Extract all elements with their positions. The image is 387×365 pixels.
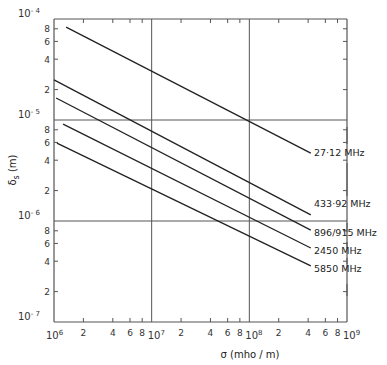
- x-minor-tick-label: 2: [81, 328, 87, 338]
- y-minor-tick-label: 4: [44, 257, 50, 267]
- x-minor-tick-label: 4: [110, 328, 116, 338]
- y-minor-tick-label: 8: [44, 226, 50, 236]
- y-minor-tick-label: 6: [44, 138, 50, 148]
- x-decade-label: 108: [245, 329, 262, 341]
- y-minor-tick-label: 2: [44, 186, 50, 196]
- x-decade-label: 106: [46, 329, 64, 341]
- x-minor-tick-label: 6: [225, 328, 231, 338]
- grid: [54, 19, 347, 322]
- y-axis-title: δs (m): [7, 154, 21, 185]
- y-minor-tick-label: 6: [44, 239, 50, 249]
- series-line-2: [56, 98, 311, 230]
- series-lines: [54, 27, 311, 266]
- y-minor-tick-label: 6: [44, 37, 50, 47]
- x-minor-tick-label: 4: [208, 328, 214, 338]
- x-axis-title: σ (mho / m): [221, 349, 280, 360]
- y-minor-tick-label: 8: [44, 125, 50, 135]
- x-minor-tick-label: 2: [178, 328, 184, 338]
- x-minor-tick-label: 8: [237, 328, 243, 338]
- y-minor-tick-label: 4: [44, 156, 50, 166]
- series-line-4: [57, 143, 311, 266]
- series-label: 896/915 MHz: [314, 227, 377, 238]
- x-minor-tick-label: 8: [139, 328, 145, 338]
- x-decade-label: 109: [343, 329, 360, 341]
- series-line-0: [66, 27, 311, 153]
- axes: [54, 19, 347, 322]
- y-decade-label: 10- 5: [18, 108, 40, 120]
- y-minor-tick-label: 2: [44, 287, 50, 297]
- x-minor-tick-label: 6: [322, 328, 328, 338]
- x-minor-tick-label: 8: [335, 328, 341, 338]
- x-minor-tick-label: 4: [305, 328, 311, 338]
- series-label: 433·92 MHz: [314, 198, 371, 209]
- series-label: 5850 MHz: [314, 263, 362, 274]
- x-decade-label: 107: [148, 329, 165, 341]
- series-label: 27·12 MHz: [314, 147, 365, 158]
- y-decade-label: 10- 4: [18, 7, 40, 19]
- y-decade-label: 10- 6: [18, 209, 40, 221]
- labels: 24682468246824682468246810610710810910- …: [7, 7, 377, 360]
- skin-depth-chart: 24682468246824682468246810610710810910- …: [0, 0, 387, 365]
- y-minor-tick-label: 4: [44, 55, 50, 65]
- y-decade-label: 10- 7: [18, 310, 40, 322]
- ticks: [54, 19, 347, 322]
- series-line-3: [63, 124, 311, 248]
- series-label: 2450 MHz: [314, 245, 362, 256]
- x-minor-tick-label: 2: [276, 328, 282, 338]
- x-minor-tick-label: 6: [127, 328, 133, 338]
- series-line-1: [54, 80, 311, 215]
- y-minor-tick-label: 8: [44, 24, 50, 34]
- y-minor-tick-label: 2: [44, 85, 50, 95]
